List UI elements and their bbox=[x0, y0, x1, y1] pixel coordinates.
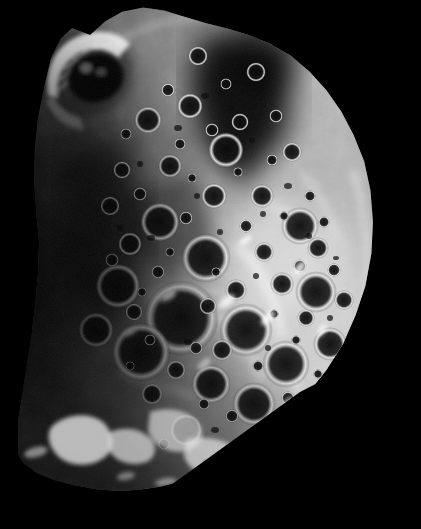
moon-body bbox=[0, 0, 421, 529]
image-canvas bbox=[0, 0, 421, 529]
moon-surface bbox=[0, 0, 421, 529]
surface-render bbox=[0, 0, 421, 529]
image-grain bbox=[0, 0, 421, 529]
